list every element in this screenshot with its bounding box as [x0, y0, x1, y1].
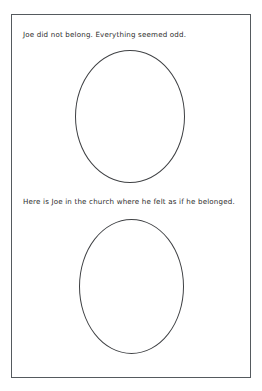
prompt-text-1: Joe did not belong. Everything seemed od… — [23, 30, 186, 39]
oval-drawing-frame-2[interactable] — [79, 219, 184, 354]
prompt-text-2: Here is Joe in the church where he felt … — [23, 197, 235, 206]
oval-drawing-frame-1[interactable] — [75, 50, 185, 183]
worksheet-page: Joe did not belong. Everything seemed od… — [11, 14, 251, 378]
